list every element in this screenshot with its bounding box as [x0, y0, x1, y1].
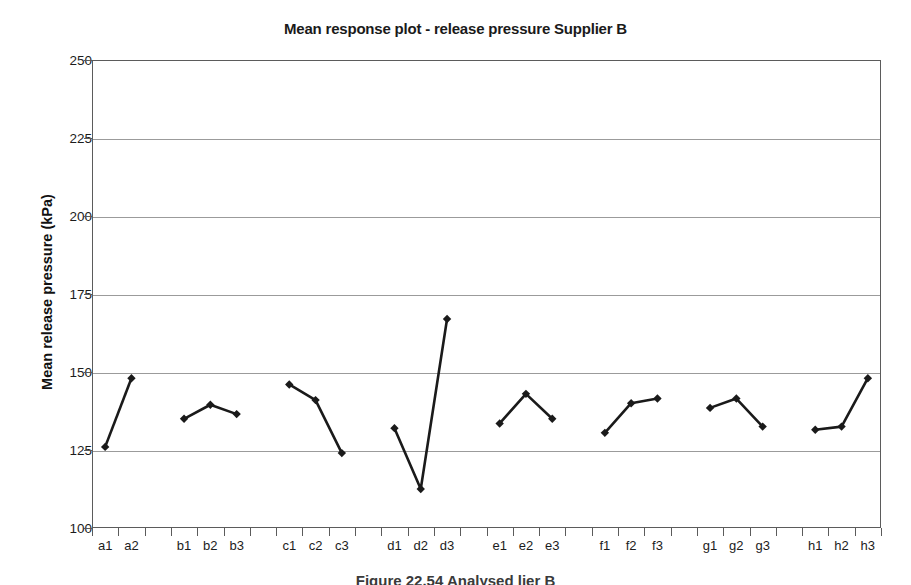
x-tick-mark: [197, 528, 198, 536]
x-tick-label: e3: [532, 538, 572, 553]
plot-area: [92, 60, 881, 528]
x-tick-mark: [539, 528, 540, 536]
x-tick-mark: [145, 528, 146, 536]
x-tick-label: b3: [217, 538, 257, 553]
gridline: [93, 373, 880, 374]
x-tick-label: c3: [322, 538, 362, 553]
x-tick-mark: [723, 528, 724, 536]
y-tick-mark: [84, 294, 92, 295]
x-tick-mark: [828, 528, 829, 536]
x-tick-mark: [855, 528, 856, 536]
x-tick-label: d3: [427, 538, 467, 553]
x-tick-label: g3: [743, 538, 783, 553]
x-tick-mark: [697, 528, 698, 536]
x-tick-mark: [644, 528, 645, 536]
y-tick-mark: [84, 138, 92, 139]
x-tick-label: h3: [848, 538, 888, 553]
x-tick-mark: [381, 528, 382, 536]
y-tick-mark: [84, 450, 92, 451]
x-tick-mark: [302, 528, 303, 536]
x-tick-mark: [276, 528, 277, 536]
gridline: [93, 295, 880, 296]
x-tick-mark: [565, 528, 566, 536]
x-tick-mark: [802, 528, 803, 536]
x-tick-mark: [118, 528, 119, 536]
y-axis: 250225200175150125100: [0, 0, 92, 585]
x-tick-mark: [513, 528, 514, 536]
x-tick-mark: [750, 528, 751, 536]
gridline: [93, 217, 880, 218]
x-tick-mark: [408, 528, 409, 536]
y-tick-mark: [84, 372, 92, 373]
gridline: [93, 139, 880, 140]
y-tick-mark: [84, 60, 92, 61]
x-tick-mark: [171, 528, 172, 536]
x-tick-mark: [460, 528, 461, 536]
figure-caption: Figure 22.54 Analysed lier B: [0, 572, 911, 585]
x-tick-mark: [618, 528, 619, 536]
x-tick-label: a2: [111, 538, 151, 553]
gridline: [93, 451, 880, 452]
x-tick-mark: [355, 528, 356, 536]
x-tick-mark: [224, 528, 225, 536]
x-tick-mark: [487, 528, 488, 536]
x-tick-mark: [329, 528, 330, 536]
page-title: Mean response plot - release pressure Su…: [0, 20, 911, 37]
x-tick-mark: [434, 528, 435, 536]
x-tick-label: f3: [637, 538, 677, 553]
x-tick-mark: [776, 528, 777, 536]
x-tick-mark: [92, 528, 93, 536]
figure-chart: Mean response plot - release pressure Su…: [0, 0, 911, 585]
x-tick-mark: [250, 528, 251, 536]
x-tick-mark: [881, 528, 882, 536]
y-tick-mark: [84, 216, 92, 217]
x-tick-mark: [671, 528, 672, 536]
x-tick-mark: [592, 528, 593, 536]
y-tick-mark: [84, 528, 92, 529]
